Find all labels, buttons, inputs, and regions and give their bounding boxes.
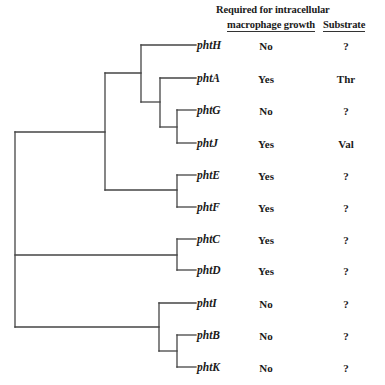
substrate-value: ? xyxy=(343,234,349,246)
gene-label: phtF xyxy=(197,201,220,213)
substrate-value: ? xyxy=(343,105,349,117)
gene-label: phtB xyxy=(197,329,220,341)
gene-label: phtE xyxy=(197,169,220,181)
substrate-value: ? xyxy=(343,330,349,342)
required-value: Yes xyxy=(258,234,274,246)
gene-label: phtA xyxy=(197,72,220,84)
required-value: No xyxy=(259,298,272,310)
gene-label: phtC xyxy=(197,233,220,245)
substrate-value: Val xyxy=(338,138,354,150)
required-value: No xyxy=(259,40,272,52)
gene-label: phtH xyxy=(197,39,221,51)
gene-label: phtJ xyxy=(197,137,218,149)
substrate-value: ? xyxy=(343,265,349,277)
substrate-value: ? xyxy=(343,40,349,52)
substrate-value: ? xyxy=(343,170,349,182)
gene-label: phtK xyxy=(197,361,220,373)
required-value: Yes xyxy=(258,265,274,277)
required-value: Yes xyxy=(258,138,274,150)
gene-label: phtD xyxy=(197,264,221,276)
required-header-line1: Required for intracellular xyxy=(216,4,330,15)
substrate-value: Thr xyxy=(337,73,355,85)
substrate-header: Substrate xyxy=(323,19,365,32)
substrate-value: ? xyxy=(343,362,349,374)
substrate-value: ? xyxy=(343,298,349,310)
required-value: No xyxy=(259,362,272,374)
gene-label: phtI xyxy=(197,297,217,309)
required-value: Yes xyxy=(258,170,274,182)
gene-label: phtG xyxy=(197,104,221,116)
substrate-value: ? xyxy=(343,202,349,214)
required-value: No xyxy=(259,105,272,117)
required-value: No xyxy=(259,330,272,342)
phylogenetic-tree xyxy=(0,0,385,385)
required-value: Yes xyxy=(258,202,274,214)
required-header-line2: macrophage growth xyxy=(227,19,315,32)
required-value: Yes xyxy=(258,73,274,85)
